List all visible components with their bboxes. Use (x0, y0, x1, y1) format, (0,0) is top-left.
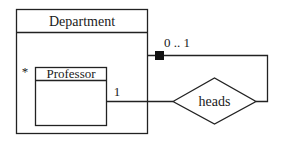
department-name: Department (49, 14, 115, 29)
professor-end-multiplicity: 1 (114, 84, 121, 99)
heads-association: heads 1 0 .. 1 (107, 35, 268, 124)
professor-name: Professor (46, 66, 96, 81)
professor-multiplicity: * (22, 64, 29, 79)
department-end-multiplicity: 0 .. 1 (164, 35, 190, 50)
filled-square-marker-icon (155, 51, 164, 60)
uml-diagram: Department Professor * heads 1 0 .. 1 (0, 0, 281, 144)
heads-label: heads (199, 94, 231, 109)
professor-class: Professor * (22, 64, 107, 126)
